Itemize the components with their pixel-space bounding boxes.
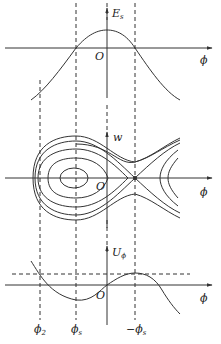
dashed-guides <box>40 3 135 320</box>
origin-label-bottom: O <box>96 290 105 301</box>
saddle-point <box>134 177 137 180</box>
panel-bottom-potential <box>5 246 212 325</box>
panel-middle-phase <box>5 132 212 228</box>
u-phi-axis-label: Uϕ <box>112 247 126 260</box>
phi-axis-label-top: ϕ <box>200 55 208 66</box>
panel-top-es <box>5 8 212 100</box>
es-curve <box>31 30 180 100</box>
phi-axis-label-middle: ϕ <box>200 187 208 198</box>
marker-phi-s: ϕs <box>71 324 82 337</box>
es-axis-label: Es <box>112 8 124 21</box>
origin-label-middle: O <box>96 181 105 192</box>
phi-axis-label-bottom: ϕ <box>200 293 208 304</box>
phase-stability-diagram <box>0 0 221 344</box>
w-axis-label: w <box>113 132 122 143</box>
marker-neg-phi-s: −ϕs <box>126 324 146 337</box>
origin-label-top: O <box>95 51 104 62</box>
marker-phi-2: ϕ2 <box>34 324 46 337</box>
potential-curve <box>31 261 180 314</box>
